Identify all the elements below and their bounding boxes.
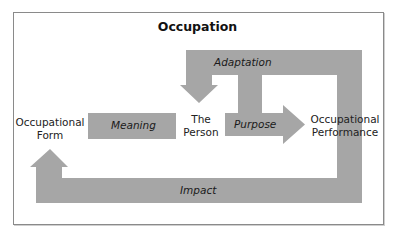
node-the-person-line1: The — [180, 113, 222, 126]
node-the-person-line2: Person — [180, 126, 222, 139]
node-occupational-performance-line2: Performance — [303, 126, 387, 139]
node-occupational-form-line1: Occupational — [14, 116, 86, 129]
node-occupational-performance: Occupational Performance — [303, 113, 387, 139]
arrow-label-impact: Impact — [180, 184, 216, 196]
arrow-label-adaptation: Adaptation — [214, 56, 272, 68]
diagram-title: Occupation — [0, 19, 395, 34]
arrow-label-purpose: Purpose — [234, 118, 276, 130]
node-occupational-performance-line1: Occupational — [303, 113, 387, 126]
arrow-label-meaning: Meaning — [111, 119, 156, 131]
node-the-person: The Person — [180, 113, 222, 139]
node-occupational-form: Occupational Form — [14, 116, 86, 142]
adaptation-purpose-connector — [238, 74, 262, 114]
node-occupational-form-line2: Form — [14, 129, 86, 142]
